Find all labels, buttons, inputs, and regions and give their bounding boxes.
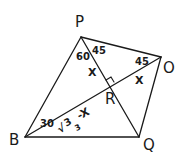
minus-x: -X — [75, 105, 92, 122]
fraction-denominator: 3 — [73, 123, 82, 134]
length-label-ro: X — [135, 74, 144, 87]
segment-oq — [139, 57, 161, 137]
point-label-o: O — [163, 59, 175, 77]
length-label-pr: X — [88, 66, 97, 79]
point-label-b: B — [9, 131, 19, 149]
angle-label-bpr: 60 — [76, 51, 90, 62]
length-label-br: √ 3 3 -X — [54, 105, 96, 141]
angle-label-rpo: 45 — [92, 45, 106, 56]
angle-label-pbr: 30 — [40, 118, 54, 129]
point-label-p: P — [75, 13, 84, 31]
geometry-diagram: P O B Q R 60 45 45 30 X X √ 3 3 -X — [0, 0, 183, 159]
angle-label-por: 45 — [135, 56, 149, 67]
point-label-q: Q — [143, 136, 155, 154]
point-label-r: R — [105, 90, 115, 108]
